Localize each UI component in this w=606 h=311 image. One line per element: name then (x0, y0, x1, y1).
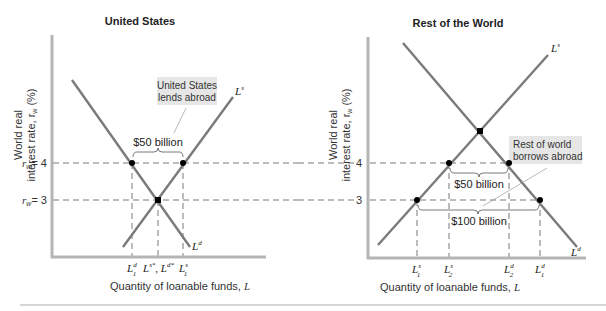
row-point-ld2 (506, 160, 512, 166)
us-point-equilibrium (155, 197, 161, 203)
us-amount-label: $50 billion (133, 136, 183, 148)
row-amount-50: $50 billion (454, 178, 504, 190)
row-ld-label: Ld (570, 245, 581, 258)
svg-text:interest rate, rw (%): interest rate, rw (%) (340, 88, 353, 181)
us-ld-label: Ld (191, 239, 202, 252)
us-supply-curve (123, 97, 233, 247)
us-point-ld1 (129, 160, 135, 166)
row-ls-label: Ls (550, 41, 560, 54)
row-x-axis-label: Quantity of loanable funds, L (380, 281, 520, 293)
us-x-axis-label: Quantity of loanable funds, L (110, 280, 250, 292)
row-amount-100: $100 billion (451, 215, 507, 227)
us-point-ls1 (180, 160, 186, 166)
us-note-line2: lends abroad (158, 92, 216, 103)
us-xtick-eq: Ls*, Ld* (142, 261, 174, 274)
row-y-axis-label: World real interest rate, rw (%) (327, 88, 353, 181)
svg-text:World real: World real (327, 110, 339, 160)
us-brace (133, 148, 183, 157)
us-tick-r4: rw= 4 (22, 157, 47, 170)
us-xtick-ld1: Ld1 (126, 261, 137, 278)
row-note-line2: borrows abroad (513, 151, 582, 162)
row-point-ls1 (414, 197, 420, 203)
us-title: United States (105, 15, 175, 27)
row-xtick-ld1: Ld1 (534, 262, 545, 279)
row-xtick-ls1: Ls1 (411, 262, 421, 279)
us-xtick-ls1: Ls1 (178, 261, 188, 278)
row-point-ls2 (446, 160, 452, 166)
row-xtick-ld2: Ld2 (503, 262, 514, 279)
row-point-ld1 (537, 197, 543, 203)
us-ls-label: Ls (234, 84, 244, 97)
figure: United States World real interest rate, … (0, 0, 606, 311)
row-tick-4: 4 (356, 157, 362, 169)
row-brace-100 (418, 205, 539, 214)
row-xtick-ls2: Ls2 (443, 262, 453, 279)
us-tick-r3: rw= 3 (22, 194, 47, 207)
row-panel: Rest of the World World real interest ra… (298, 17, 586, 293)
us-note-pointer (174, 108, 186, 133)
row-brace-50 (450, 168, 508, 177)
us-note-line1: United States (157, 80, 217, 91)
svg-text:World real: World real (12, 110, 24, 160)
row-tick-3: 3 (356, 194, 362, 206)
us-panel: United States World real interest rate, … (12, 15, 298, 292)
row-title: Rest of the World (413, 17, 504, 29)
row-point-equilibrium (477, 128, 483, 134)
row-note-line1: Rest of world (513, 139, 571, 150)
